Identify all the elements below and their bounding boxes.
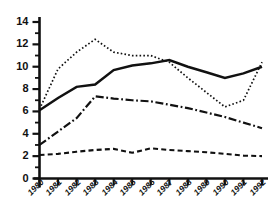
y-tick-label: 8 [0, 83, 29, 94]
y-tick-label: 6 [0, 105, 29, 116]
line-chart: 02468101214 1980198119821983198419851986… [0, 0, 278, 219]
y-tick-label: 14 [0, 16, 29, 27]
axis-lines [34, 17, 269, 179]
y-tick-label: 4 [0, 128, 29, 139]
series-dash-dot-series [40, 96, 263, 145]
series-dotted-series [40, 39, 263, 109]
y-tick-label: 0 [0, 173, 29, 184]
y-tick-label: 2 [0, 150, 29, 161]
data-series-lines [40, 39, 263, 156]
y-tick-label: 12 [0, 38, 29, 49]
series-dashed-series [40, 148, 263, 156]
series-solid-series [40, 60, 263, 110]
y-tick-label: 10 [0, 61, 29, 72]
